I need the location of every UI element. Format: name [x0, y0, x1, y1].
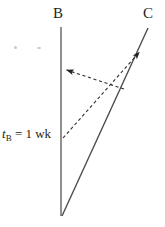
time-b-annotation: tB = 1 wk	[2, 127, 51, 143]
time-b-value: = 1 wk	[15, 126, 51, 141]
worldline-c-axis	[62, 28, 148, 216]
signal-b-to-c-dashed	[63, 52, 140, 138]
spacetime-diagram-figure: B C tB = 1 wk	[0, 0, 165, 227]
dust-speck-left	[14, 46, 17, 49]
worldline-b-label: B	[53, 6, 63, 21]
diagram-canvas	[0, 0, 165, 227]
time-b-subscript: B	[6, 133, 12, 143]
dust-speck-right	[37, 47, 41, 49]
worldline-c-label: C	[143, 6, 153, 21]
